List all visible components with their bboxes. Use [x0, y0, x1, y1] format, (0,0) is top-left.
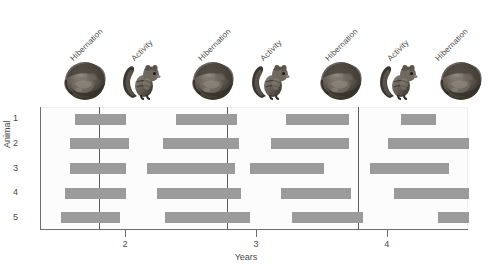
x-tick-3: 3: [245, 239, 267, 249]
hibernation-bar-animal1-bout3: [286, 114, 349, 125]
active-squirrel-icon: [377, 58, 423, 102]
x-tickmark-2: [125, 230, 126, 237]
x-tickmark-3: [256, 230, 257, 237]
hibernation-bar-animal3-bout1: [70, 163, 126, 174]
hibernation-bar-animal4-bout3: [281, 188, 352, 199]
figure-canvas: HibernationActivityHibernationActivityHi…: [0, 0, 492, 277]
active-squirrel-icon: [120, 58, 166, 102]
x-tick-2: 2: [114, 239, 136, 249]
hibernation-bar-animal1-bout1: [75, 114, 126, 125]
hibernation-bar-animal3-bout3: [250, 163, 323, 174]
x-axis-label: Years: [216, 252, 276, 262]
hibernation-bar-animal4-bout2: [157, 188, 241, 199]
hibernation-bar-animal4-bout1: [65, 188, 127, 199]
hibernation-bar-animal3-bout2: [147, 163, 235, 174]
y-tick-1: 1: [0, 113, 18, 123]
hibernation-bar-animal5-bout3: [292, 212, 363, 223]
hibernation-bar-animal2-bout4: [388, 138, 469, 149]
plot-area: [40, 107, 468, 230]
y-tick-5: 5: [0, 212, 18, 222]
hibernation-bar-animal5-bout1: [61, 212, 120, 223]
active-squirrel-icon: [249, 58, 295, 102]
hibernation-bar-animal1-bout2: [176, 114, 238, 125]
hibernation-bar-animal4-bout4: [394, 188, 469, 199]
hibernation-bar-animal5-bout2: [165, 212, 250, 223]
hibernation-bar-animal3-bout4: [370, 163, 450, 174]
reference-line-3: [358, 107, 359, 229]
y-tick-3: 3: [0, 163, 18, 173]
hibernation-bar-animal2-bout2: [163, 138, 239, 149]
y-tick-2: 2: [0, 138, 18, 148]
hibernation-bar-animal5-bout4: [438, 212, 469, 223]
hibernating-squirrel-icon: [318, 58, 364, 102]
x-tick-4: 4: [376, 239, 398, 249]
x-tickmark-4: [387, 230, 388, 237]
hibernating-squirrel-icon: [62, 58, 108, 102]
hibernation-bar-animal1-bout4: [401, 114, 436, 125]
hibernating-squirrel-icon: [190, 58, 236, 102]
y-tick-4: 4: [0, 187, 18, 197]
hibernation-bar-animal2-bout1: [70, 138, 129, 149]
hibernation-bar-animal2-bout3: [271, 138, 348, 149]
hibernating-squirrel-icon: [438, 58, 484, 102]
